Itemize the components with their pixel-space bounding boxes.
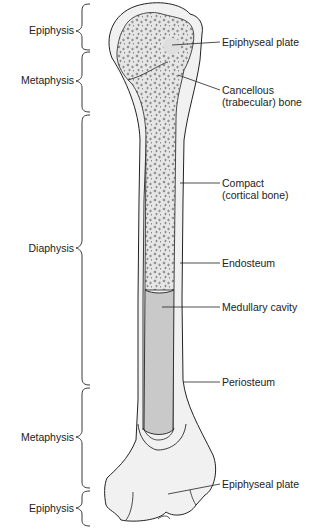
medullary-cavity xyxy=(144,290,174,435)
brace-metaphysis-bottom xyxy=(76,388,90,488)
region-label-metaphysis-bottom: Metaphysis xyxy=(21,431,74,443)
region-braces xyxy=(76,4,90,526)
label-epiphyseal-plate-top: Epiphyseal plate xyxy=(222,36,299,48)
label-cancellous-line1: Cancellous xyxy=(222,84,274,96)
label-cancellous-line2: (trabecular) bone xyxy=(222,96,302,108)
label-medullary-cavity: Medullary cavity xyxy=(222,301,297,313)
label-periosteum: Periosteum xyxy=(222,376,275,388)
label-compact-line1: Compact xyxy=(222,177,264,189)
epiphyseal-plate-shade xyxy=(163,38,181,54)
label-endosteum: Endosteum xyxy=(222,257,275,269)
brace-metaphysis-top xyxy=(76,52,90,112)
region-label-epiphysis-bottom: Epiphysis xyxy=(29,502,74,514)
region-label-diaphysis: Diaphysis xyxy=(28,242,74,254)
label-epiphyseal-plate-bottom: Epiphyseal plate xyxy=(222,478,299,490)
brace-diaphysis xyxy=(76,115,90,385)
region-label-metaphysis-top: Metaphysis xyxy=(21,74,74,86)
brace-epiphysis-top xyxy=(76,4,90,50)
region-label-epiphysis-top: Epiphysis xyxy=(29,24,74,36)
brace-epiphysis-bottom xyxy=(76,491,90,526)
label-compact-line2: (cortical bone) xyxy=(222,189,289,201)
